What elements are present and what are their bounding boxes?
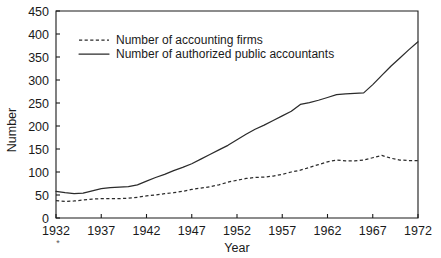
chart-legend: Number of accounting firms Number of aut…: [79, 33, 334, 61]
y-axis-ticks: [56, 11, 60, 218]
x-axis-tick-labels: 193219371942194719521957196219671972: [42, 224, 432, 238]
y-tick-label: 100: [28, 166, 49, 180]
x-tick-label: 1957: [268, 224, 296, 238]
y-axis-tick-labels: 050100150200250300350400450: [28, 5, 49, 226]
y-tick-label: 150: [28, 143, 49, 157]
x-tick-label: 1942: [133, 224, 161, 238]
x-tick-label: 1937: [87, 224, 115, 238]
x-tick-label: 1932: [42, 224, 70, 238]
line-chart: 050100150200250300350400450 193219371942…: [0, 0, 441, 258]
footnote-asterisk: *: [56, 238, 60, 248]
series-line-accounting-firms: [56, 155, 418, 201]
x-tick-label: 1962: [314, 224, 342, 238]
x-tick-label: 1952: [223, 224, 251, 238]
x-tick-label: 1967: [359, 224, 387, 238]
y-tick-label: 300: [28, 74, 49, 88]
legend-label-authorized-public-accountants: Number of authorized public accountants: [116, 47, 334, 61]
x-axis-ticks: [56, 214, 418, 218]
y-tick-label: 450: [28, 5, 49, 19]
series-line-authorized-public-accountants: [56, 42, 418, 194]
series-group: [56, 42, 418, 202]
x-tick-label: 1947: [178, 224, 206, 238]
y-tick-label: 50: [35, 189, 49, 203]
y-tick-label: 400: [28, 28, 49, 42]
y-tick-label: 200: [28, 120, 49, 134]
chart-figure: 050100150200250300350400450 193219371942…: [0, 0, 441, 258]
x-tick-label: 1972: [404, 224, 432, 238]
y-tick-label: 350: [28, 51, 49, 65]
y-tick-label: 250: [28, 97, 49, 111]
legend-label-accounting-firms: Number of accounting firms: [116, 33, 263, 47]
x-axis-title: Year: [224, 241, 249, 255]
y-axis-title: Number: [5, 108, 19, 152]
